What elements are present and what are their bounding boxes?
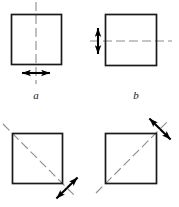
panel-c-centerline	[3, 124, 76, 197]
panel-d-arrow-upper-left	[149, 118, 160, 129]
panel-b-label: b	[133, 89, 139, 101]
panel-b-square	[106, 15, 157, 66]
panel-c	[3, 124, 78, 199]
figure-root: a b	[0, 0, 179, 207]
panel-d-centerline	[96, 120, 169, 193]
panel-d	[96, 118, 171, 193]
symmetry-diagram-svg: a b	[0, 0, 179, 207]
panel-d-square	[106, 134, 157, 184]
panel-a-label: a	[33, 89, 39, 101]
panel-c-arrow-lower-left	[56, 188, 67, 199]
panel-a: a	[12, 2, 62, 101]
panel-b: b	[90, 15, 172, 102]
panel-c-arrow-upper-right	[67, 177, 78, 188]
panel-d-arrow-lower-right	[160, 129, 171, 140]
